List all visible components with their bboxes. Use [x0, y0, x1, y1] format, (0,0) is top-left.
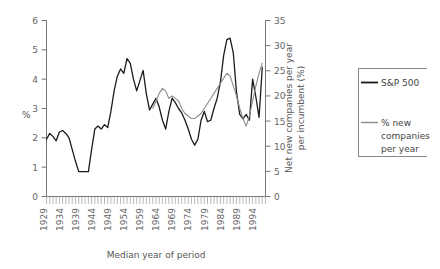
legend-label-new-companies-line3: per year — [381, 144, 419, 154]
legend-label-sp500: S&P 500 — [381, 78, 419, 88]
right-tick-label: 5 — [274, 167, 280, 177]
axes-group — [47, 20, 266, 197]
x-tick-label: 1974 — [183, 208, 193, 231]
left-tick-label: 4 — [32, 75, 38, 85]
x-tick-label: 1949 — [103, 208, 113, 231]
x-tick-label: 1984 — [216, 208, 226, 231]
series-line-new-companies — [153, 63, 263, 126]
x-tick-label: 1969 — [167, 208, 177, 231]
x-tick-label: 1959 — [135, 208, 145, 231]
right-tick-label: 0 — [274, 192, 280, 202]
right-axis-ticks: 05101520253035 — [266, 16, 286, 202]
left-tick-label: 3 — [32, 104, 38, 114]
x-axis-minor-ticks — [47, 197, 266, 204]
left-axis-title: % — [22, 110, 31, 120]
left-axis-ticks: 0123456 — [32, 16, 46, 202]
x-tick-label: 1954 — [119, 208, 129, 231]
legend-label-new-companies-line1: % new — [381, 118, 411, 128]
x-tick-label: 1989 — [232, 208, 242, 231]
left-tick-label: 2 — [32, 133, 38, 143]
chart-legend: S&P 500 % new companies per year — [359, 68, 431, 157]
right-tick-label: 35 — [274, 16, 285, 26]
left-tick-label: 1 — [32, 163, 38, 173]
x-tick-label: 1994 — [248, 208, 258, 231]
x-tick-label: 1979 — [200, 208, 210, 231]
chart-figure: 0123456 05101520253035 19291934193919441… — [0, 0, 440, 269]
x-tick-label: 1934 — [55, 208, 65, 231]
right-axis-title-line1: Net new companies per year — [284, 43, 294, 173]
x-tick-label: 1939 — [71, 208, 81, 231]
left-tick-label: 5 — [32, 45, 38, 55]
x-axis-ticks: 1929193419391944194919541959196419691974… — [39, 208, 258, 231]
legend-label-new-companies-line2: companies — [381, 131, 430, 141]
chart-canvas: 0123456 05101520253035 19291934193919441… — [0, 0, 440, 269]
left-tick-label: 6 — [32, 16, 38, 26]
right-axis-title-line2: per incumbent (%) — [296, 66, 306, 150]
bottom-axis-title: Median year of period — [107, 250, 206, 260]
left-tick-label: 0 — [32, 192, 38, 202]
x-tick-label: 1929 — [39, 208, 49, 231]
x-tick-label: 1964 — [151, 208, 161, 231]
x-tick-label: 1944 — [87, 208, 97, 231]
